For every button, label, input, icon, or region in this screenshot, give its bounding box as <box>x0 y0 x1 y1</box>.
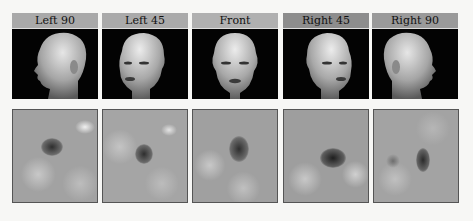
head-profile-left-icon <box>12 29 98 99</box>
head-photo-left-90 <box>12 29 98 99</box>
head-photo-right-45 <box>283 29 369 99</box>
light-spot <box>161 124 177 136</box>
view-label: Front <box>192 13 278 29</box>
head-photo-right-90 <box>372 29 458 99</box>
head-three-quarter-right-icon <box>283 29 369 99</box>
noise-tile-left-90 <box>12 109 98 203</box>
panel-right-90: Right 90 <box>372 13 458 99</box>
light-spot <box>75 120 95 134</box>
noise-tile-right-90 <box>373 109 459 203</box>
noise-tile-front <box>192 109 278 203</box>
dark-spot <box>41 138 63 156</box>
view-label: Right 90 <box>372 13 458 29</box>
head-photo-left-45 <box>102 29 188 99</box>
dark-spot-faint <box>386 154 400 168</box>
panel-left-45: Left 45 <box>102 13 188 99</box>
head-photo-front <box>192 29 278 99</box>
head-frontal-icon <box>192 29 278 99</box>
view-label: Left 90 <box>12 13 98 29</box>
dark-spot <box>135 144 153 164</box>
dark-spot <box>229 136 249 162</box>
head-three-quarter-left-icon <box>102 29 188 99</box>
dark-spot <box>416 148 430 172</box>
noise-tile-left-45 <box>102 109 188 203</box>
panel-front: Front <box>192 13 278 99</box>
view-label: Left 45 <box>102 13 188 29</box>
view-label: Right 45 <box>283 13 369 29</box>
dark-spot <box>320 148 346 168</box>
panel-left-90: Left 90 <box>12 13 98 99</box>
noise-tile-right-45 <box>283 109 369 203</box>
head-profile-right-icon <box>372 29 458 99</box>
panel-right-45: Right 45 <box>283 13 369 99</box>
